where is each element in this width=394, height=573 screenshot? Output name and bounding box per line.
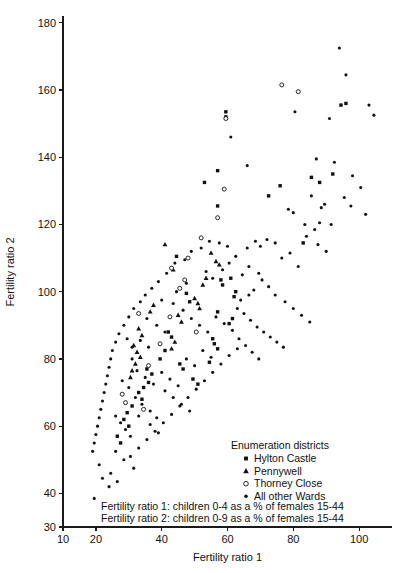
marker-dot (221, 268, 224, 271)
marker-square (137, 391, 140, 394)
marker-dot (163, 330, 166, 333)
marker-dot (129, 455, 132, 458)
marker-square (150, 372, 153, 375)
marker-dot (228, 262, 231, 265)
marker-dot (144, 376, 147, 379)
marker-dot (231, 329, 234, 332)
marker-dot (318, 221, 321, 224)
marker-dot (303, 223, 306, 226)
marker-circle-open (183, 278, 187, 282)
marker-square (216, 169, 219, 172)
marker-dot (260, 278, 263, 281)
marker-dot (246, 246, 249, 249)
marker-square (125, 411, 128, 414)
marker-dot (236, 307, 239, 310)
marker-dot (93, 497, 96, 500)
marker-dot (139, 339, 142, 342)
marker-triangle (209, 250, 214, 254)
marker-dot (308, 320, 311, 323)
marker-dot (139, 300, 142, 303)
y-tick-label: 100 (38, 286, 56, 298)
marker-dot (210, 356, 213, 359)
marker-circle-open (120, 392, 124, 396)
marker-dot (316, 243, 319, 246)
marker-circle-open (199, 236, 203, 240)
marker-dot (122, 458, 125, 461)
plot-svg: 304060801001201401601801020406080100 Enu… (0, 0, 394, 573)
marker-dot (104, 383, 107, 386)
marker-square (310, 176, 313, 179)
marker-triangle (204, 276, 209, 280)
marker-square (178, 362, 181, 365)
marker-dot (147, 346, 150, 349)
marker-dot (254, 240, 257, 243)
marker-square (163, 349, 166, 352)
marker-dot (195, 388, 198, 391)
marker-square (158, 357, 161, 360)
marker-dot (200, 246, 203, 249)
y-axis-title: Fertility ratio 2 (4, 237, 16, 306)
marker-dot (131, 357, 134, 360)
note-line: Fertility ratio 1: children 0-4 as a % o… (101, 500, 344, 512)
marker-dot (265, 238, 268, 241)
marker-dot (292, 307, 295, 310)
marker-dot (223, 322, 226, 325)
marker-dot (274, 241, 277, 244)
marker-dot (193, 364, 196, 367)
marker-dot (244, 495, 248, 499)
marker-dot (344, 73, 347, 76)
marker-square (344, 102, 347, 105)
marker-dot (137, 415, 140, 418)
marker-triangle (151, 303, 156, 307)
marker-triangle (136, 326, 141, 330)
marker-square (229, 277, 232, 280)
marker-square (167, 330, 170, 333)
marker-dot (234, 255, 237, 258)
marker-square (216, 347, 219, 350)
y-tick-label: 30 (44, 521, 56, 533)
marker-triangle (128, 375, 133, 379)
marker-dot (149, 423, 152, 426)
marker-dot (127, 315, 130, 318)
marker-triangle (163, 242, 168, 246)
legend-entry-label: Thorney Close (254, 477, 322, 489)
marker-square (219, 278, 222, 281)
marker-square (232, 295, 235, 298)
marker-dot (145, 317, 148, 320)
marker-circle-open (147, 364, 151, 368)
marker-dot (246, 164, 249, 167)
marker-dot (305, 235, 308, 238)
axes-group: 304060801001201401601801020406080100 (38, 16, 392, 545)
marker-dot (284, 300, 287, 303)
marker-dot (180, 403, 183, 406)
x-tick-label: 100 (350, 533, 368, 545)
marker-circle-open (124, 401, 128, 405)
marker-dot (280, 257, 283, 260)
marker-dot (135, 369, 138, 372)
marker-triangle (192, 296, 197, 300)
marker-square (318, 181, 321, 184)
marker-dot (91, 450, 94, 453)
marker-triangle (169, 346, 174, 350)
notes-group: Fertility ratio 1: children 0-4 as a % o… (101, 500, 344, 524)
marker-dot (244, 344, 247, 347)
x-axis-title: Fertility ratio 1 (193, 551, 262, 563)
marker-dot (172, 302, 175, 305)
marker-dot (325, 250, 328, 253)
x-tick-label: 60 (221, 533, 233, 545)
marker-dot (160, 299, 163, 302)
marker-triangle (179, 319, 184, 323)
marker-square (140, 398, 143, 401)
marker-dot (114, 341, 117, 344)
marker-dot (155, 416, 158, 419)
scatter-plot-figure: 304060801001201401601801020406080100 Enu… (0, 0, 394, 573)
marker-square (224, 110, 227, 113)
marker-dot (349, 204, 352, 207)
marker-dot (98, 463, 101, 466)
marker-circle-open (137, 312, 141, 316)
marker-dot (121, 379, 124, 382)
marker-square (130, 404, 133, 407)
legend-group: Enumeration districtsHylton CastlePennyw… (231, 439, 329, 502)
y-tick-label: 40 (44, 487, 56, 499)
marker-square (234, 290, 237, 293)
